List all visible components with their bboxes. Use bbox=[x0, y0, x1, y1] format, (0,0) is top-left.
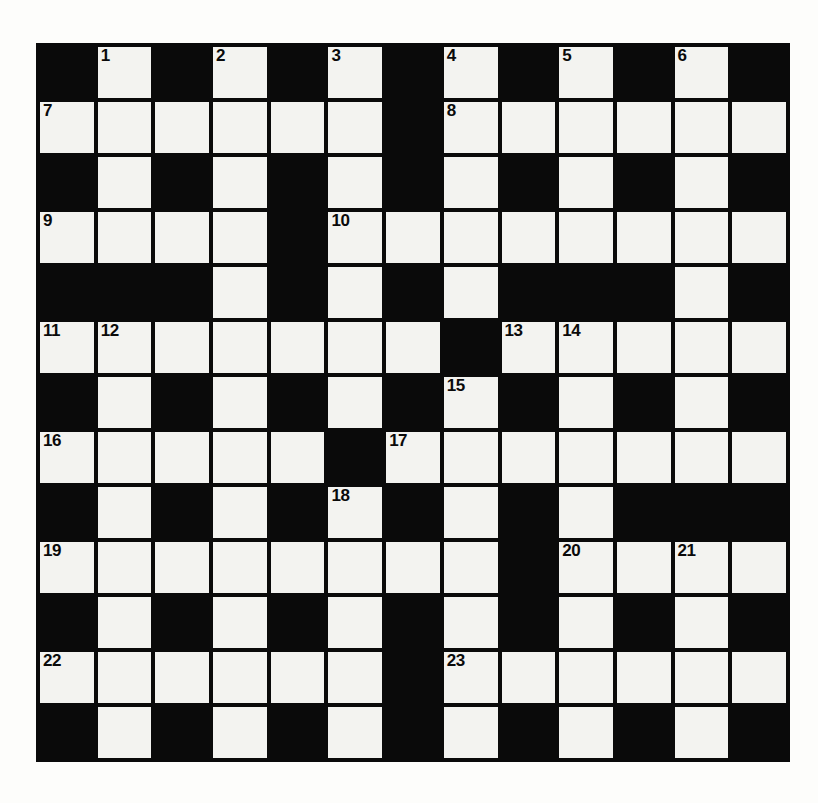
crossword-cell-light[interactable] bbox=[384, 540, 442, 595]
crossword-cell-light[interactable] bbox=[673, 705, 731, 760]
crossword-cell-light[interactable]: 15 bbox=[442, 375, 500, 430]
crossword-cell-light[interactable] bbox=[442, 485, 500, 540]
crossword-cell-light[interactable] bbox=[730, 100, 788, 155]
crossword-cell-light[interactable] bbox=[153, 210, 211, 265]
crossword-cell-light[interactable] bbox=[384, 320, 442, 375]
crossword-cell-light[interactable] bbox=[96, 540, 154, 595]
crossword-cell-light[interactable]: 3 bbox=[326, 45, 384, 100]
crossword-cell-light[interactable]: 11 bbox=[38, 320, 96, 375]
crossword-cell-light[interactable] bbox=[326, 540, 384, 595]
crossword-cell-light[interactable] bbox=[730, 650, 788, 705]
crossword-cell-light[interactable] bbox=[615, 320, 673, 375]
crossword-cell-light[interactable] bbox=[557, 595, 615, 650]
crossword-cell-light[interactable] bbox=[730, 540, 788, 595]
crossword-cell-light[interactable] bbox=[326, 595, 384, 650]
crossword-cell-light[interactable] bbox=[673, 100, 731, 155]
crossword-cell-light[interactable]: 1 bbox=[96, 45, 154, 100]
crossword-cell-light[interactable] bbox=[211, 100, 269, 155]
crossword-cell-light[interactable]: 17 bbox=[384, 430, 442, 485]
crossword-cell-light[interactable] bbox=[269, 540, 327, 595]
crossword-cell-light[interactable] bbox=[269, 100, 327, 155]
crossword-cell-light[interactable] bbox=[211, 320, 269, 375]
crossword-cell-light[interactable] bbox=[673, 155, 731, 210]
crossword-cell-light[interactable] bbox=[557, 100, 615, 155]
crossword-cell-light[interactable] bbox=[557, 485, 615, 540]
crossword-cell-light[interactable] bbox=[673, 595, 731, 650]
crossword-cell-light[interactable] bbox=[211, 375, 269, 430]
crossword-cell-light[interactable]: 6 bbox=[673, 45, 731, 100]
crossword-cell-light[interactable] bbox=[269, 430, 327, 485]
crossword-cell-light[interactable]: 14 bbox=[557, 320, 615, 375]
crossword-cell-light[interactable] bbox=[442, 210, 500, 265]
crossword-cell-light[interactable] bbox=[500, 210, 558, 265]
crossword-cell-light[interactable] bbox=[96, 375, 154, 430]
crossword-cell-light[interactable] bbox=[211, 485, 269, 540]
crossword-cell-light[interactable] bbox=[442, 595, 500, 650]
crossword-cell-light[interactable] bbox=[211, 430, 269, 485]
crossword-cell-light[interactable] bbox=[211, 265, 269, 320]
crossword-cell-light[interactable]: 13 bbox=[500, 320, 558, 375]
crossword-cell-light[interactable] bbox=[96, 100, 154, 155]
crossword-cell-light[interactable]: 7 bbox=[38, 100, 96, 155]
crossword-cell-light[interactable] bbox=[442, 155, 500, 210]
crossword-cell-light[interactable] bbox=[326, 155, 384, 210]
crossword-cell-light[interactable] bbox=[96, 705, 154, 760]
crossword-cell-light[interactable]: 22 bbox=[38, 650, 96, 705]
crossword-cell-light[interactable]: 8 bbox=[442, 100, 500, 155]
crossword-cell-light[interactable] bbox=[96, 210, 154, 265]
crossword-cell-light[interactable] bbox=[96, 155, 154, 210]
crossword-cell-light[interactable] bbox=[211, 210, 269, 265]
crossword-cell-light[interactable] bbox=[153, 100, 211, 155]
crossword-cell-light[interactable] bbox=[673, 210, 731, 265]
crossword-cell-light[interactable] bbox=[211, 705, 269, 760]
crossword-cell-light[interactable]: 16 bbox=[38, 430, 96, 485]
crossword-cell-light[interactable] bbox=[557, 705, 615, 760]
crossword-cell-light[interactable] bbox=[615, 540, 673, 595]
crossword-cell-light[interactable] bbox=[442, 540, 500, 595]
crossword-cell-light[interactable] bbox=[326, 320, 384, 375]
crossword-cell-light[interactable] bbox=[442, 265, 500, 320]
crossword-cell-light[interactable] bbox=[326, 650, 384, 705]
crossword-cell-light[interactable] bbox=[153, 320, 211, 375]
crossword-cell-light[interactable]: 18 bbox=[326, 485, 384, 540]
crossword-cell-light[interactable]: 21 bbox=[673, 540, 731, 595]
crossword-cell-light[interactable] bbox=[673, 375, 731, 430]
crossword-grid[interactable]: 1234567891011121314151617181920212223 bbox=[36, 43, 790, 762]
crossword-cell-light[interactable] bbox=[96, 430, 154, 485]
crossword-cell-light[interactable] bbox=[615, 100, 673, 155]
crossword-cell-light[interactable] bbox=[500, 430, 558, 485]
crossword-cell-light[interactable] bbox=[673, 430, 731, 485]
crossword-cell-light[interactable] bbox=[211, 595, 269, 650]
crossword-cell-light[interactable] bbox=[96, 485, 154, 540]
crossword-cell-light[interactable] bbox=[557, 430, 615, 485]
crossword-cell-light[interactable]: 19 bbox=[38, 540, 96, 595]
crossword-cell-light[interactable] bbox=[500, 650, 558, 705]
crossword-cell-light[interactable] bbox=[615, 650, 673, 705]
crossword-cell-light[interactable]: 12 bbox=[96, 320, 154, 375]
crossword-cell-light[interactable]: 20 bbox=[557, 540, 615, 595]
crossword-cell-light[interactable] bbox=[269, 650, 327, 705]
crossword-cell-light[interactable] bbox=[730, 210, 788, 265]
crossword-cell-light[interactable] bbox=[153, 540, 211, 595]
crossword-cell-light[interactable] bbox=[211, 650, 269, 705]
crossword-cell-light[interactable] bbox=[326, 705, 384, 760]
crossword-cell-light[interactable] bbox=[442, 430, 500, 485]
crossword-cell-light[interactable]: 9 bbox=[38, 210, 96, 265]
crossword-cell-light[interactable] bbox=[442, 705, 500, 760]
crossword-cell-light[interactable] bbox=[269, 320, 327, 375]
crossword-cell-light[interactable] bbox=[96, 650, 154, 705]
crossword-cell-light[interactable] bbox=[557, 210, 615, 265]
crossword-cell-light[interactable] bbox=[96, 595, 154, 650]
crossword-cell-light[interactable]: 10 bbox=[326, 210, 384, 265]
crossword-cell-light[interactable] bbox=[153, 650, 211, 705]
crossword-cell-light[interactable]: 2 bbox=[211, 45, 269, 100]
crossword-cell-light[interactable] bbox=[326, 375, 384, 430]
crossword-cell-light[interactable] bbox=[211, 540, 269, 595]
crossword-cell-light[interactable] bbox=[557, 155, 615, 210]
crossword-cell-light[interactable] bbox=[326, 100, 384, 155]
crossword-cell-light[interactable] bbox=[673, 265, 731, 320]
crossword-cell-light[interactable] bbox=[326, 265, 384, 320]
crossword-cell-light[interactable] bbox=[557, 650, 615, 705]
crossword-cell-light[interactable] bbox=[730, 430, 788, 485]
crossword-cell-light[interactable]: 5 bbox=[557, 45, 615, 100]
